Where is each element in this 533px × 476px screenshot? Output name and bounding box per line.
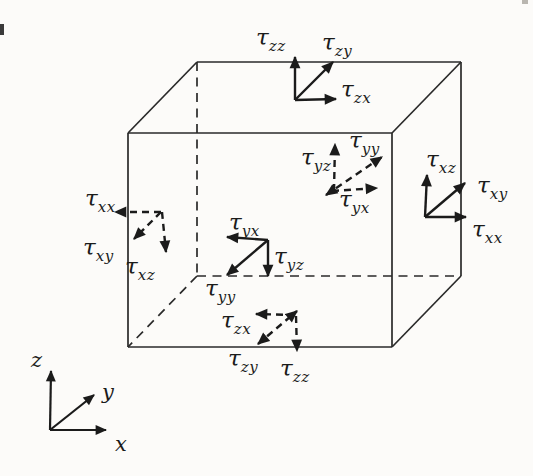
tau-symbol: τ — [349, 127, 362, 153]
tau-subscript: zx — [354, 89, 371, 107]
tau-symbol: τ — [301, 144, 314, 170]
arrow-tau-yy-downleft — [227, 240, 268, 275]
arrow-tau-yz-back-up — [334, 144, 335, 191]
arrow-tau-xz-left-face — [162, 212, 166, 252]
arrow-tau-xy-left-face — [134, 212, 161, 239]
tau-subscript: yz — [287, 256, 304, 274]
tau-symbol: τ — [125, 253, 138, 279]
label-tau-zz-top: τzz — [256, 26, 286, 54]
label-tau-zy-top: τzy — [322, 31, 352, 59]
cube-edges — [128, 62, 461, 347]
arrow-tau-xz-up — [425, 175, 427, 217]
tau-subscript: yy — [218, 288, 236, 306]
tau-symbol: τ — [205, 275, 218, 301]
tau-symbol: τ — [322, 29, 335, 55]
label-tau-xx-left: τxx — [85, 187, 116, 215]
z-axis-arrow — [50, 371, 51, 430]
arrow-tau-zx-right — [295, 99, 336, 100]
arrow-tau-xy-upright — [425, 183, 465, 217]
tau-symbol: τ — [83, 234, 96, 260]
y-axis-arrow — [50, 395, 94, 430]
figure-stress-cube: τzz τzy τzx τyz τyy τyx τxz τxy τxx τxx … — [0, 0, 533, 476]
tau-subscript: xz — [439, 159, 456, 177]
coordinate-axes — [50, 371, 106, 430]
scan-artifact-top-right — [522, 0, 528, 4]
tau-symbol: τ — [256, 24, 269, 50]
label-tau-yy-back: τyy — [349, 129, 380, 157]
tau-symbol: τ — [280, 355, 293, 381]
tau-subscript: yz — [314, 157, 331, 175]
cube-hidden-edges — [128, 62, 461, 347]
label-tau-yz-front: τyz — [274, 245, 304, 273]
tau-subscript: zx — [234, 320, 251, 338]
label-tau-xy-left: τxy — [83, 236, 114, 264]
label-tau-xx-right: τxx — [472, 218, 503, 246]
tau-symbol: τ — [426, 146, 439, 172]
tau-subscript: xy — [96, 247, 114, 265]
tau-symbol: τ — [477, 172, 490, 198]
arrow-tau-zx-bottom-left — [256, 314, 295, 315]
y-axis-label: y — [102, 382, 114, 403]
arrow-tau-zz-bottom-down — [296, 316, 297, 351]
label-tau-zx-top: τzx — [341, 78, 371, 106]
tau-subscript: xx — [98, 198, 116, 216]
tau-subscript: xx — [485, 229, 503, 247]
tau-subscript: yy — [362, 140, 380, 158]
tau-symbol: τ — [472, 216, 485, 242]
tau-subscript: yx — [242, 222, 260, 240]
tau-subscript: yx — [352, 199, 370, 217]
scan-artifact-left-edge — [0, 24, 4, 35]
cube-edge-bottom-left-diagonal-hidden — [128, 276, 197, 347]
tau-symbol: τ — [274, 243, 287, 269]
tau-symbol: τ — [221, 307, 234, 333]
tau-symbol: τ — [339, 186, 352, 212]
label-tau-yz-back: τyz — [301, 146, 331, 174]
z-axis-label: z — [31, 350, 42, 371]
label-tau-xy-right: τxy — [477, 174, 508, 202]
cube-edge-bottom-right-diagonal — [392, 276, 461, 347]
tau-symbol: τ — [228, 345, 241, 371]
tau-symbol: τ — [229, 209, 242, 235]
tau-subscript: zz — [293, 368, 310, 386]
tau-subscript: zz — [269, 37, 286, 55]
label-tau-zz-bottom: τzz — [280, 357, 310, 385]
tau-symbol: τ — [85, 185, 98, 211]
x-axis-label: x — [115, 434, 127, 455]
label-tau-yy-front: τyy — [205, 277, 236, 305]
tau-subscript: xy — [490, 185, 508, 203]
cube-edge-top-right-diagonal — [392, 62, 461, 133]
label-tau-zy-bottom: τzy — [228, 347, 258, 375]
tau-subscript: zy — [241, 358, 258, 376]
tau-subscript: zy — [335, 42, 352, 60]
tau-subscript: xz — [138, 266, 155, 284]
arrow-tau-zy-upright — [295, 62, 333, 100]
cube-edge-top-left-diagonal — [128, 62, 197, 133]
label-tau-xz-left: τxz — [125, 255, 155, 283]
label-tau-zx-bottom: τzx — [221, 309, 251, 337]
diagram-canvas — [0, 0, 533, 476]
label-tau-yx-front: τyx — [229, 211, 260, 239]
label-tau-yx-back: τyx — [339, 188, 370, 216]
tau-symbol: τ — [341, 76, 354, 102]
label-tau-xz-right: τxz — [426, 148, 456, 176]
